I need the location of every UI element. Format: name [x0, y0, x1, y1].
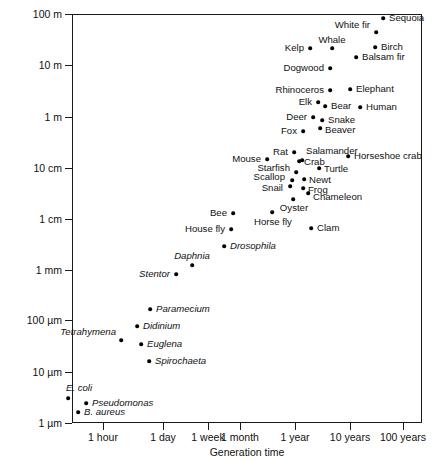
data-point	[308, 46, 312, 50]
scatter-chart: Length Generation time 100 m10 m1 m10 cm…	[0, 0, 443, 460]
data-point-label: Beaver	[325, 125, 355, 135]
data-point	[317, 166, 321, 170]
y-tick-mark	[65, 320, 72, 321]
y-tick-label: 100 µm	[27, 315, 62, 326]
data-point-label: Whale	[318, 35, 345, 45]
data-point-label: Paramecium	[156, 304, 210, 314]
data-point-label: Rhinoceros	[275, 85, 324, 95]
data-point-label: Snail	[262, 183, 283, 193]
x-tick-label: 1 year	[280, 432, 309, 443]
data-point-label: Kelp	[285, 43, 304, 53]
x-tick-mark	[103, 423, 104, 430]
data-point-label: Horseshoe crab	[354, 151, 422, 161]
data-point-label: Drosophila	[230, 241, 276, 251]
data-point	[190, 263, 194, 267]
x-tick-label: 100 years	[380, 432, 426, 443]
data-point-label: Balsam fir	[362, 52, 405, 62]
x-tick-mark	[403, 423, 404, 430]
data-point	[147, 359, 151, 363]
data-point-label: Scallop	[254, 172, 285, 182]
y-tick-mark	[65, 168, 72, 169]
data-point-label: Bee	[210, 208, 227, 218]
data-point-label: Elephant	[356, 84, 394, 94]
data-point	[301, 129, 305, 133]
y-tick-label: 100 m	[33, 9, 62, 20]
data-point	[66, 396, 70, 400]
data-point-label: White fir	[335, 20, 370, 30]
y-tick-mark	[65, 65, 72, 66]
data-point	[318, 126, 322, 130]
data-point	[231, 211, 235, 215]
y-tick-mark	[65, 117, 72, 118]
data-point-label: Human	[366, 102, 397, 112]
data-point	[297, 159, 301, 163]
data-point-label: Sequoia	[389, 13, 424, 23]
data-point	[330, 46, 334, 50]
data-point	[374, 30, 378, 34]
data-point	[174, 272, 178, 276]
data-point	[323, 104, 327, 108]
data-point	[348, 87, 352, 91]
data-point	[291, 197, 295, 201]
data-point-label: Tetrahymena	[60, 327, 116, 337]
y-tick-mark	[65, 219, 72, 220]
data-point	[290, 178, 294, 182]
data-point	[265, 157, 269, 161]
data-point-label: Clam	[317, 223, 339, 233]
x-tick-label: 1 hour	[88, 432, 118, 443]
y-tick-mark	[65, 372, 72, 373]
y-tick-mark	[65, 423, 72, 424]
data-point	[292, 150, 296, 154]
data-point	[139, 342, 143, 346]
data-point-label: Oyster	[280, 203, 308, 213]
data-point	[76, 410, 80, 414]
data-point	[316, 100, 320, 104]
data-point-label: Deer	[286, 112, 307, 122]
y-tick-mark	[65, 14, 72, 15]
data-point	[84, 401, 88, 405]
data-point-label: Elk	[299, 97, 312, 107]
data-point-label: Bear	[331, 101, 351, 111]
x-tick-mark	[295, 423, 296, 430]
x-tick-mark	[163, 423, 164, 430]
data-point	[309, 226, 313, 230]
data-point	[311, 115, 315, 119]
y-tick-label: 10 m	[39, 60, 62, 71]
data-point	[148, 307, 152, 311]
data-point	[288, 184, 292, 188]
data-point-label: Fox	[281, 126, 297, 136]
y-tick-label: 1 mm	[36, 265, 62, 276]
data-point	[294, 170, 298, 174]
data-point-label: Chameleon	[313, 192, 362, 202]
y-tick-label: 1 m	[44, 112, 62, 123]
x-tick-mark	[208, 423, 209, 430]
data-point	[270, 210, 274, 214]
x-tick-label: 10 years	[330, 432, 370, 443]
data-point	[373, 45, 377, 49]
y-tick-label: 1 µm	[38, 418, 62, 429]
data-point	[135, 324, 139, 328]
data-point-label: House fly	[185, 224, 225, 234]
data-point	[306, 191, 310, 195]
data-point	[301, 186, 305, 190]
data-point	[354, 55, 358, 59]
data-point	[358, 105, 362, 109]
x-tick-label: 1 week	[191, 432, 224, 443]
data-point-label: Stentor	[139, 269, 170, 279]
data-point-label: Horse fly	[254, 217, 292, 227]
data-point	[328, 66, 332, 70]
x-axis-title: Generation time	[210, 446, 285, 458]
x-tick-label: 1 month	[221, 432, 259, 443]
x-tick-mark	[350, 423, 351, 430]
data-point	[346, 154, 350, 158]
data-point-label: Daphnia	[174, 251, 210, 261]
data-point-label: E. coli	[66, 383, 92, 393]
data-point	[302, 177, 306, 181]
data-point-label: Crab	[304, 157, 325, 167]
data-point-label: Turtle	[324, 164, 348, 174]
plot-area	[72, 14, 422, 423]
data-point	[222, 244, 226, 248]
data-point	[381, 16, 385, 20]
data-point	[320, 118, 324, 122]
data-point-label: Rat	[273, 147, 288, 157]
